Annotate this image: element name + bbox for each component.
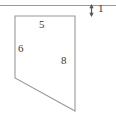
- dimension-arrow-up-icon: [89, 4, 93, 8]
- geometry-figure: 5 6 8 1: [0, 0, 116, 117]
- dimension-arrow-down-icon: [89, 13, 93, 17]
- side-label-right: 8: [61, 55, 67, 66]
- side-label-top: 5: [39, 19, 45, 30]
- side-label-left: 6: [18, 43, 24, 54]
- figure-canvas: [0, 0, 116, 117]
- dimension-label-gap: 1: [98, 3, 104, 14]
